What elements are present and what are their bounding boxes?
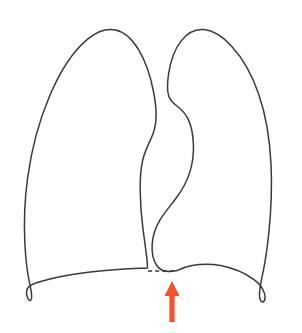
arrow-indicator bbox=[165, 281, 180, 322]
lung-diagram-figure bbox=[0, 0, 302, 333]
lung-diagram-svg bbox=[0, 0, 302, 333]
left-lung-outline bbox=[24, 30, 156, 301]
right-lung-outline bbox=[152, 29, 271, 301]
arrow-head-icon bbox=[165, 281, 180, 296]
